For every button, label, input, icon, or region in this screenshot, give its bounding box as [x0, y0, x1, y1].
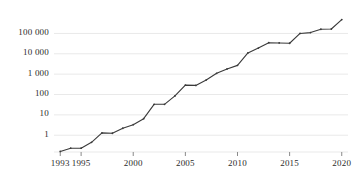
data-point-2012	[257, 47, 259, 49]
chart-plot-area	[0, 0, 358, 181]
data-point-2016	[299, 33, 301, 35]
data-series-line	[60, 20, 341, 152]
x-tick-label-2000: 2000	[113, 158, 153, 168]
x-tick-label-2015: 2015	[270, 158, 310, 168]
data-point-2004	[174, 95, 176, 97]
data-point-1997	[101, 132, 103, 134]
y-tick-label-10: 10	[40, 108, 49, 118]
x-tick-label-2005: 2005	[165, 158, 205, 168]
data-point-markers	[59, 19, 342, 153]
line-chart: 1101001 00010 000100 000 199319952000200…	[0, 0, 358, 181]
series-polyline	[60, 20, 341, 152]
x-tick-label-2010: 2010	[217, 158, 257, 168]
x-axis	[54, 152, 348, 156]
data-point-2002	[153, 103, 155, 105]
x-tick-label-1995: 1995	[61, 158, 101, 168]
data-point-1998	[111, 132, 113, 134]
y-tick-label-1000: 1 000	[28, 68, 49, 78]
data-point-2009	[226, 68, 228, 70]
y-tick-label-100: 100	[35, 88, 49, 98]
data-point-2014	[278, 42, 280, 44]
gridline-group	[54, 33, 348, 135]
data-point-2006	[195, 85, 197, 87]
data-point-1995	[80, 147, 82, 149]
data-point-2005	[184, 84, 186, 86]
y-tick-label-10000: 10 000	[23, 47, 49, 57]
data-point-2013	[268, 42, 270, 44]
data-point-2018	[320, 28, 322, 30]
data-point-2015	[289, 42, 291, 44]
data-point-1994	[70, 147, 72, 149]
data-point-2010	[237, 64, 239, 66]
data-point-2019	[330, 28, 332, 30]
y-tick-label-100000: 100 000	[18, 27, 49, 37]
data-point-2011	[247, 52, 249, 54]
data-point-2000	[132, 124, 134, 126]
data-point-2020	[341, 19, 343, 21]
data-point-1993	[59, 151, 61, 153]
data-point-2001	[143, 118, 145, 120]
data-point-2008	[216, 72, 218, 74]
y-tick-label-1: 1	[44, 129, 49, 139]
x-tick-label-2020: 2020	[322, 158, 358, 168]
data-point-2007	[205, 79, 207, 81]
data-point-1999	[122, 127, 124, 129]
data-point-2017	[310, 32, 312, 34]
data-point-1996	[91, 141, 93, 143]
data-point-2003	[164, 103, 166, 105]
